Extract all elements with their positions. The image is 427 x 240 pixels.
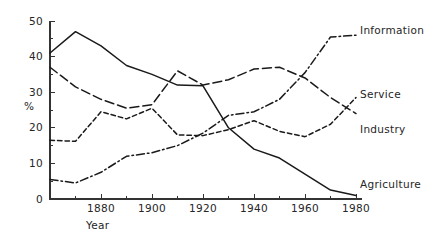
- y-tick-label: 30: [29, 86, 43, 98]
- y-tick-label: 40: [29, 50, 43, 62]
- series-label-information: Information: [360, 24, 424, 36]
- series-label-service: Service: [360, 88, 401, 100]
- series-line-service: [50, 67, 356, 113]
- axes-group: [50, 21, 362, 199]
- y-axis-title: %: [24, 100, 34, 112]
- x-tick-label: 1980: [342, 202, 370, 214]
- y-tick-label: 10: [29, 157, 43, 169]
- chart-container: 01020304050188019001920194019601980 Agri…: [0, 0, 427, 240]
- tick-marks-group: [50, 21, 356, 199]
- tick-labels-group: 01020304050188019001920194019601980: [29, 15, 370, 214]
- axis-lines: [50, 21, 362, 199]
- line-chart: 01020304050188019001920194019601980 Agri…: [0, 0, 427, 240]
- x-tick-label: 1900: [138, 202, 166, 214]
- series-line-agriculture: [50, 32, 356, 196]
- series-labels-group: AgricultureServiceIndustryInformation: [360, 24, 424, 190]
- series-label-agriculture: Agriculture: [360, 178, 421, 190]
- x-tick-label: 1880: [87, 202, 115, 214]
- y-tick-label: 0: [36, 193, 43, 205]
- series-label-industry: Industry: [360, 123, 406, 135]
- series-line-industry: [50, 98, 356, 142]
- series-line-information: [50, 35, 356, 183]
- y-tick-label: 20: [29, 121, 43, 133]
- x-tick-label: 1940: [240, 202, 268, 214]
- x-tick-label: 1960: [291, 202, 319, 214]
- y-tick-label: 50: [29, 15, 43, 27]
- x-tick-label: 1920: [189, 202, 217, 214]
- series-lines-group: [50, 32, 356, 196]
- x-axis-title: Year: [85, 219, 110, 231]
